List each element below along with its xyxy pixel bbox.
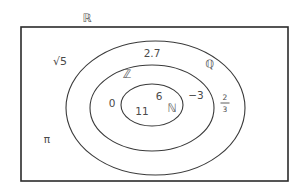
element-sqrt5: √5 <box>53 55 67 68</box>
venn-diagram-canvas: ℝ ℚ ℤ ℕ √5 π 2.7 0 −3 6 11 2 3 <box>0 0 303 193</box>
element-negative-three: −3 <box>188 89 203 101</box>
fraction-numerator: 2 <box>223 93 228 102</box>
element-eleven: 11 <box>135 105 148 117</box>
set-label-real: ℝ <box>82 11 91 25</box>
set-label-integers: ℤ <box>123 67 132 81</box>
set-label-rational: ℚ <box>205 57 214 71</box>
element-six: 6 <box>156 90 163 102</box>
element-zero: 0 <box>109 97 116 109</box>
rational-numbers-boundary <box>66 41 245 175</box>
element-two-thirds: 2 3 <box>221 93 230 114</box>
element-2-point-7: 2.7 <box>144 47 161 59</box>
number-sets-venn-svg: ℝ ℚ ℤ ℕ √5 π 2.7 0 −3 6 11 2 3 <box>0 0 303 193</box>
fraction-denominator: 3 <box>223 105 228 114</box>
element-pi: π <box>44 133 51 145</box>
set-label-natural: ℕ <box>167 101 176 115</box>
